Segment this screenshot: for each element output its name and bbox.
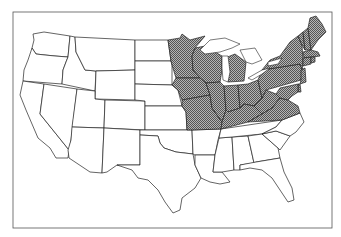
state-maine — [308, 16, 326, 50]
state-arizona — [68, 127, 104, 173]
state-montana — [75, 37, 135, 71]
shaded-states — [168, 16, 326, 130]
state-south-dakota — [135, 61, 172, 85]
state-delaware — [298, 84, 301, 92]
state-florida — [240, 158, 294, 202]
state-indiana — [224, 85, 240, 112]
state-rhode-island — [311, 57, 315, 63]
lake-superior — [200, 38, 240, 54]
state-new-jersey — [300, 68, 306, 84]
state-north-dakota — [135, 40, 171, 61]
state-colorado — [104, 100, 145, 130]
state-kansas — [145, 106, 187, 130]
state-connecticut — [303, 57, 311, 66]
state-wyoming — [95, 70, 135, 100]
us-map — [0, 0, 341, 237]
state-washington — [32, 32, 70, 57]
